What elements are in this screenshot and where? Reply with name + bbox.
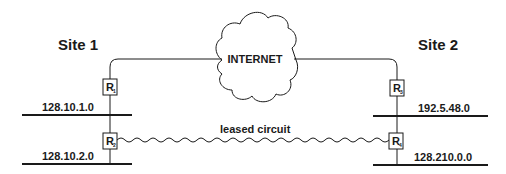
internet-link-site2 — [294, 59, 397, 80]
router-r4: R 4 — [389, 133, 403, 149]
leased-circuit-label: leased circuit — [220, 123, 291, 135]
router-subscript: 3 — [400, 89, 403, 95]
network-label: 192.5.48.0 — [418, 102, 470, 114]
site-2-label: Site 2 — [418, 36, 458, 53]
site-1-label: Site 1 — [58, 36, 98, 53]
internet-cloud: INTERNET — [216, 12, 298, 101]
router-r1: R 1 — [103, 79, 117, 95]
leased-circuit-line — [117, 138, 389, 142]
router-subscript: 1 — [113, 88, 116, 94]
internet-link-site1 — [110, 59, 222, 79]
router-subscript: 2 — [113, 142, 116, 148]
network-label: 128.10.1.0 — [42, 101, 94, 113]
network-label: 128.210.0.0 — [414, 151, 472, 163]
router-r2: R 2 — [103, 133, 117, 149]
router-r3: R 3 — [390, 80, 404, 96]
network-label: 128.10.2.0 — [42, 150, 94, 162]
network-diagram: INTERNET Site 1 Site 2 128.10.1.0 128.10… — [0, 0, 506, 174]
router-subscript: 4 — [399, 142, 402, 148]
cloud-label: INTERNET — [228, 53, 283, 65]
